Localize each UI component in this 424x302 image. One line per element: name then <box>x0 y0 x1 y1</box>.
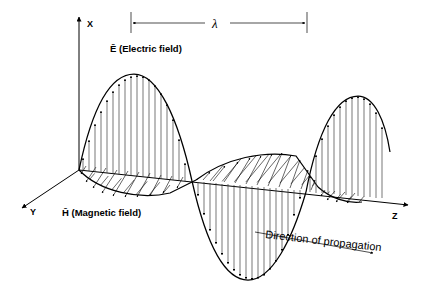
canvas-background <box>0 0 424 302</box>
z-axis-label: Z <box>392 211 398 221</box>
electric-field-label: Ē (Electric field) <box>110 43 182 54</box>
x-axis-label: X <box>87 19 93 29</box>
magnetic-field-label: H̄ (Magnetic field) <box>62 207 141 218</box>
wavelength-label: λ <box>211 16 218 31</box>
figure-root: λ X Y Z <box>0 0 424 302</box>
y-axis-label: Y <box>30 207 36 217</box>
em-wave-diagram: λ X Y Z <box>0 0 424 302</box>
